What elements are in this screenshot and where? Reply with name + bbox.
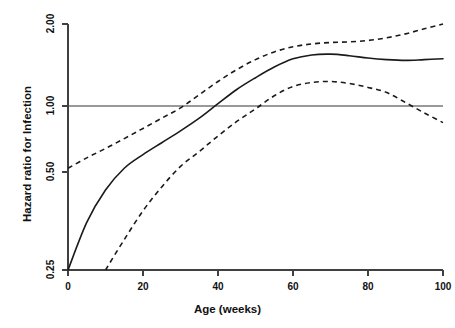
y-tick-label-1.00: 1.00 xyxy=(45,95,56,117)
upper-ci-curve xyxy=(68,24,443,168)
x-tick-label-40: 40 xyxy=(212,281,223,292)
x-tick-label-0: 0 xyxy=(65,281,71,292)
lower-ci-curve xyxy=(106,81,444,270)
plot-canvas xyxy=(0,0,455,328)
curve-layer xyxy=(68,24,443,270)
x-tick-label-20: 20 xyxy=(137,281,148,292)
x-tick-label-100: 100 xyxy=(435,281,452,292)
x-tick-label-60: 60 xyxy=(287,281,298,292)
x-axis-title: Age (weeks) xyxy=(0,303,455,315)
y-tick-label-0.25: 0.25 xyxy=(45,259,56,281)
hazard-ratio-curve xyxy=(68,54,443,270)
y-axis-title: Hazard ratio for Infection xyxy=(21,49,33,259)
x-tick-label-80: 80 xyxy=(362,281,373,292)
y-tick-label-2.00: 2.00 xyxy=(45,13,56,35)
y-tick-label-0.50: 0.50 xyxy=(45,161,56,183)
chart-figure: 0 20 40 60 80 100 2.00 1.00 0.50 0.25 Ag… xyxy=(0,0,455,328)
